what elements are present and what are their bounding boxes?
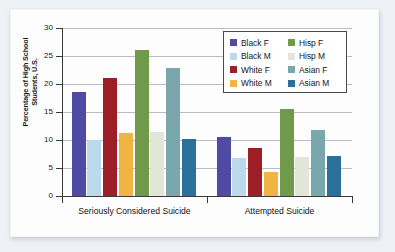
- y-tick-mark: [56, 56, 62, 57]
- y-tick-label: 15: [31, 107, 53, 116]
- legend-swatch-icon: [288, 66, 295, 73]
- bar-chart: Percentage of High School Students, U.S.…: [11, 10, 380, 238]
- legend-label: Asian F: [299, 65, 327, 75]
- bar: [72, 92, 86, 196]
- legend-column-right: Hisp FHisp MAsian FAsian M: [288, 36, 329, 90]
- legend-entry: Black F: [230, 36, 272, 50]
- gridline: [62, 28, 352, 29]
- legend-entry: White M: [230, 77, 272, 91]
- bar: [182, 139, 196, 196]
- legend-swatch-icon: [230, 80, 237, 87]
- y-tick-mark: [56, 112, 62, 113]
- legend-swatch-icon: [288, 80, 295, 87]
- y-tick-label: 0: [31, 191, 53, 200]
- y-tick-label: 10: [31, 135, 53, 144]
- bar: [311, 130, 325, 196]
- legend-entry: White F: [230, 63, 272, 77]
- y-tick-label: 30: [31, 23, 53, 32]
- legend-column-left: Black FBlack MWhite FWhite M: [230, 36, 272, 90]
- legend-label: White F: [241, 65, 270, 75]
- bar: [103, 78, 117, 196]
- legend-swatch-icon: [288, 53, 295, 60]
- chart-legend: Black FBlack MWhite FWhite M Hisp FHisp …: [223, 31, 347, 93]
- bar: [166, 68, 180, 196]
- y-axis-title-line1: Percentage of High School: [21, 12, 30, 152]
- bar: [217, 137, 231, 196]
- legend-label: Black F: [241, 38, 269, 48]
- legend-label: Asian M: [299, 78, 329, 88]
- legend-entry: Hisp M: [288, 50, 329, 64]
- x-category-label: Seriously Considered Suicide: [62, 206, 207, 216]
- bar: [135, 50, 149, 196]
- legend-label: Hisp M: [299, 51, 325, 61]
- legend-swatch-icon: [230, 66, 237, 73]
- legend-label: Hisp F: [299, 38, 323, 48]
- bar: [295, 157, 309, 196]
- legend-swatch-icon: [288, 39, 295, 46]
- y-tick-label: 5: [31, 163, 53, 172]
- y-tick-mark: [56, 84, 62, 85]
- legend-swatch-icon: [230, 39, 237, 46]
- bar: [232, 158, 246, 196]
- x-tick-mark: [62, 197, 63, 203]
- legend-entry: Black M: [230, 50, 272, 64]
- legend-label: White M: [241, 78, 272, 88]
- chart-card: Percentage of High School Students, U.S.…: [10, 9, 379, 237]
- y-tick-mark: [56, 168, 62, 169]
- legend-entry: Asian M: [288, 77, 329, 91]
- y-tick-mark: [56, 28, 62, 29]
- legend-label: Black M: [241, 51, 271, 61]
- y-tick-label: 25: [31, 51, 53, 60]
- x-tick-mark: [352, 197, 353, 203]
- bar: [264, 172, 278, 196]
- bar: [87, 140, 101, 196]
- bar: [119, 133, 133, 196]
- legend-entry: Hisp F: [288, 36, 329, 50]
- bar: [248, 148, 262, 196]
- bar: [280, 109, 294, 196]
- x-category-label: Attempted Suicide: [207, 206, 352, 216]
- y-tick-label: 20: [31, 79, 53, 88]
- bar: [327, 156, 341, 196]
- y-axis-line: [62, 28, 63, 197]
- x-tick-mark: [207, 197, 208, 203]
- y-tick-mark: [56, 140, 62, 141]
- legend-swatch-icon: [230, 53, 237, 60]
- bar: [150, 132, 164, 196]
- legend-entry: Asian F: [288, 63, 329, 77]
